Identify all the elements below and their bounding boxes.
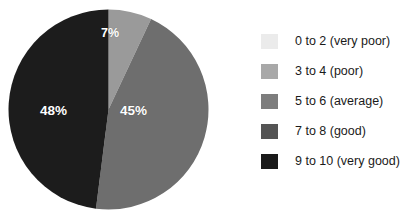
legend-item[interactable]: 5 to 6 (average) <box>261 86 416 116</box>
legend-item-label: 9 to 10 (very good) <box>295 155 400 168</box>
legend-item[interactable]: 9 to 10 (very good) <box>261 146 416 176</box>
pie-chart-figure: 7% 45% 48% 0 to 2 (very poor)3 to 4 (poo… <box>0 0 416 219</box>
legend-item-label: 0 to 2 (very poor) <box>295 35 390 48</box>
legend-color-swatch <box>261 154 278 169</box>
legend-color-swatch <box>261 34 278 49</box>
pie-plot-area: 7% 45% 48% <box>0 0 230 219</box>
legend-item[interactable]: 3 to 4 (poor) <box>261 56 416 86</box>
legend-item[interactable]: 7 to 8 (good) <box>261 116 416 146</box>
legend-item-label: 7 to 8 (good) <box>295 125 366 138</box>
pie-slice-label-9-to-10: 48% <box>40 103 67 118</box>
legend-color-swatch <box>261 94 278 109</box>
pie-slice-label-5-to-6: 7% <box>101 26 119 40</box>
legend-color-swatch <box>261 64 278 79</box>
legend-color-swatch <box>261 124 278 139</box>
chart-legend: 0 to 2 (very poor)3 to 4 (poor)5 to 6 (a… <box>261 26 416 176</box>
legend-item-label: 5 to 6 (average) <box>295 95 383 108</box>
legend-item[interactable]: 0 to 2 (very poor) <box>261 26 416 56</box>
pie-slice-label-7-to-8: 45% <box>120 103 147 118</box>
legend-item-label: 3 to 4 (poor) <box>295 65 363 78</box>
